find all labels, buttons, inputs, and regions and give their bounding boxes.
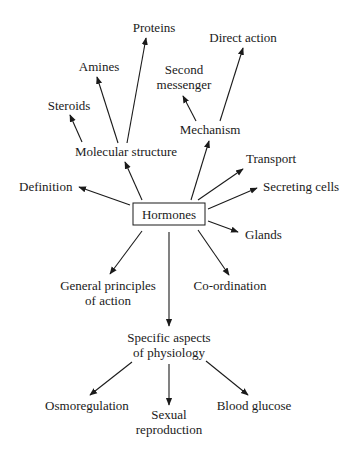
edge-hormones-mechanism [191,141,209,200]
edge-molecular-proteins [127,38,146,143]
edge-hormones-transport [198,169,243,200]
node-steroids: Steroids [48,98,91,113]
node-proteins: Proteins [133,20,176,35]
node-specific-aspects-line1: Specific aspects [127,330,210,345]
node-definition: Definition [19,179,73,194]
node-osmoregulation: Osmoregulation [45,398,129,413]
node-sexual-reproduction-line2: reproduction [136,422,203,437]
node-secreting-cells: Secreting cells [263,179,339,194]
node-direct-action: Direct action [209,30,277,45]
edge-molecular-steroids [70,115,82,142]
node-blood-glucose: Blood glucose [217,398,292,413]
node-sexual-reproduction-line1: Sexual [151,407,187,422]
edge-specific-osmoregulation [90,362,132,395]
node-transport: Transport [246,151,296,166]
edge-molecular-amines [97,77,118,143]
node-second-messenger-line2: messenger [157,77,213,92]
node-second-messenger-line1: Second [165,62,204,77]
node-general-principles-line2: of action [85,293,131,308]
edge-hormones-coordination [198,230,229,275]
node-amines: Amines [79,59,119,74]
hormones-mind-map: Hormones Proteins Amines Steroids Molecu… [0,0,357,456]
node-molecular-structure: Molecular structure [75,144,177,159]
hormones-label: Hormones [142,207,196,222]
node-coordination: Co-ordination [194,278,267,293]
edge-mechanism-second [183,96,196,121]
node-glands: Glands [245,227,282,242]
edge-mechanism-direct [220,48,243,121]
node-specific-aspects-line2: of physiology [133,345,205,360]
edge-hormones-secreting [208,188,257,209]
edge-hormones-general [110,231,142,274]
edge-hormones-molecular [125,162,142,200]
node-general-principles-line1: General principles [60,278,156,293]
edge-hormones-glands [208,221,238,232]
node-mechanism: Mechanism [180,122,241,137]
edge-specific-blood-glucose [206,361,248,395]
edge-hormones-definition [79,187,130,205]
